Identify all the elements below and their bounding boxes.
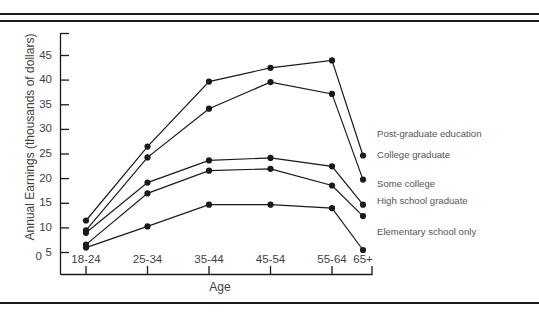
x-tick-label: 18-24 — [56, 254, 116, 266]
x-axis-ticks — [86, 266, 332, 275]
data-point — [83, 230, 89, 236]
data-point — [360, 152, 366, 158]
series-label: Some college — [377, 179, 435, 189]
y-axis-ticks — [61, 56, 70, 253]
data-point — [329, 91, 335, 97]
data-point — [206, 157, 212, 163]
series-lines — [86, 60, 363, 250]
series-markers — [83, 57, 366, 253]
data-point — [267, 155, 273, 161]
data-point — [329, 57, 335, 63]
data-point — [83, 245, 89, 251]
data-point — [206, 202, 212, 208]
series-label: College graduate — [377, 150, 450, 160]
data-point — [83, 217, 89, 223]
page-rule-bottom — [0, 302, 539, 304]
x-tick-label: 45-54 — [241, 254, 301, 266]
x-axis-title: Age — [150, 280, 290, 294]
page-rule-top-outer — [0, 13, 539, 15]
data-point — [360, 202, 366, 208]
x-tick-label: 65+ — [333, 254, 393, 266]
series-label: Elementary school only — [377, 227, 476, 237]
data-point — [329, 205, 335, 211]
data-point — [267, 79, 273, 85]
figure-frame: 45403530252015105 18-2425-3435-4445-5455… — [0, 0, 539, 313]
series-line — [86, 158, 363, 233]
data-point — [267, 166, 273, 172]
line-chart: 45403530252015105 18-2425-3435-4445-5455… — [0, 22, 539, 302]
series-line — [86, 205, 363, 250]
data-point — [206, 79, 212, 85]
series-line — [86, 60, 363, 220]
y-axis-title: Annual Earnings (thousands of dollars) — [23, 22, 37, 252]
x-tick-label: 35-44 — [179, 254, 239, 266]
data-point — [360, 213, 366, 219]
data-point — [206, 168, 212, 174]
x-tick-label: 25-34 — [118, 254, 178, 266]
data-point — [267, 202, 273, 208]
data-point — [144, 190, 150, 196]
data-point — [360, 177, 366, 183]
series-label: Post-graduate education — [377, 129, 482, 139]
data-point — [329, 182, 335, 188]
data-point — [144, 154, 150, 160]
data-point — [206, 106, 212, 112]
series-label: High school graduate — [377, 196, 468, 206]
data-point — [144, 223, 150, 229]
data-point — [329, 163, 335, 169]
data-point — [144, 180, 150, 186]
data-point — [144, 144, 150, 150]
axes — [61, 33, 373, 275]
data-point — [267, 65, 273, 71]
